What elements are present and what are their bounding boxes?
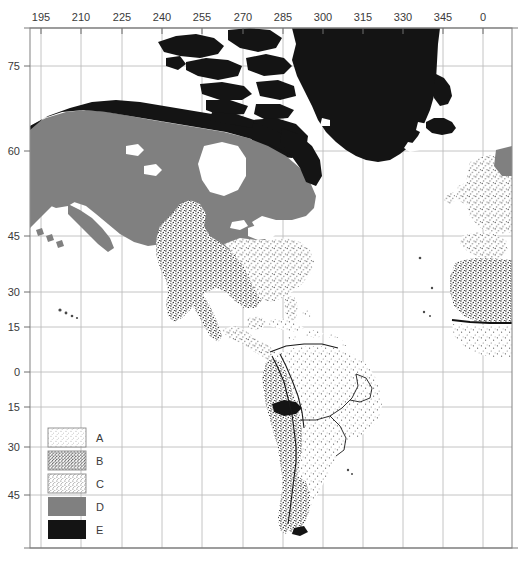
region-lesser-antilles	[342, 340, 346, 346]
left-axis-tick-label: 30	[8, 286, 20, 298]
map-canvas: 195 210 225 240 255 270 285 300 315 330 …	[0, 0, 526, 561]
legend-swatch-a	[48, 428, 86, 447]
top-axis-tick-label: 210	[72, 11, 90, 23]
top-axis-tick-label: 225	[113, 11, 131, 23]
top-axis-tick-label: 300	[314, 11, 332, 23]
left-axis-tick-label: 15	[8, 321, 20, 333]
top-axis-tick-label: 195	[32, 11, 50, 23]
legend-label-d: D	[96, 501, 104, 513]
legend-swatch-d	[48, 497, 86, 516]
top-axis-tick-label: 0	[480, 11, 486, 23]
left-axis-tick-label: 75	[8, 60, 20, 72]
left-axis-tick-label: 60	[8, 145, 20, 157]
top-axis-tick-label: 285	[274, 11, 292, 23]
climate-map-figure: 195 210 225 240 255 270 285 300 315 330 …	[0, 0, 526, 561]
top-axis-tick-label: 345	[434, 11, 452, 23]
legend-label-a: A	[96, 432, 104, 444]
legend-label-c: C	[96, 478, 104, 490]
top-axis-tick-label: 270	[234, 11, 252, 23]
top-axis-tick-label: 315	[354, 11, 372, 23]
top-axis-tick-label: 330	[394, 11, 412, 23]
left-axis-tick-label: 15	[8, 401, 20, 413]
legend-swatch-e	[48, 520, 86, 539]
left-axis-tick-label: 45	[8, 230, 20, 242]
legend-swatch-b	[48, 451, 86, 470]
legend-label-e: E	[96, 524, 103, 536]
left-axis-tick-label: 45	[8, 489, 20, 501]
left-axis-tick-label: 30	[8, 441, 20, 453]
top-axis-tick-label: 255	[193, 11, 211, 23]
top-axis-tick-label: 240	[153, 11, 171, 23]
region-jamaica	[288, 336, 296, 340]
legend-label-b: B	[96, 455, 103, 467]
legend-swatch-c	[48, 474, 86, 493]
left-axis-tick-label: 0	[14, 366, 20, 378]
